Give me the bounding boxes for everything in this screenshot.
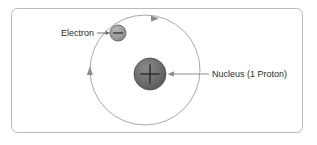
electron-label: Electron — [61, 28, 94, 38]
atom-diagram: Electron Nucleus (1 Proton) — [0, 0, 317, 145]
nucleus-label: Nucleus (1 Proton) — [212, 69, 287, 79]
diagram-canvas: Electron Nucleus (1 Proton) — [0, 0, 317, 145]
